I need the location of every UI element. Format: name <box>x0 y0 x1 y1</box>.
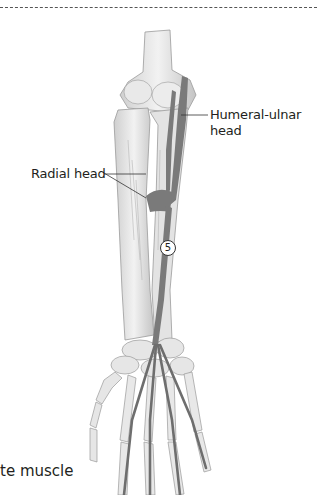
label-humeral-ulnar-line1: Humeral-ulnar <box>210 107 301 123</box>
forearm-illustration <box>0 0 317 495</box>
radius-bone <box>114 108 154 340</box>
thumb-bones <box>90 372 122 462</box>
label-radial-head: Radial head <box>31 166 106 182</box>
label-humeral-ulnar-line2: head <box>210 123 301 139</box>
number-marker-5: 5 <box>160 240 176 256</box>
figure-caption: te muscle <box>0 462 73 480</box>
label-humeral-ulnar-head: Humeral-ulnar head <box>210 107 301 139</box>
